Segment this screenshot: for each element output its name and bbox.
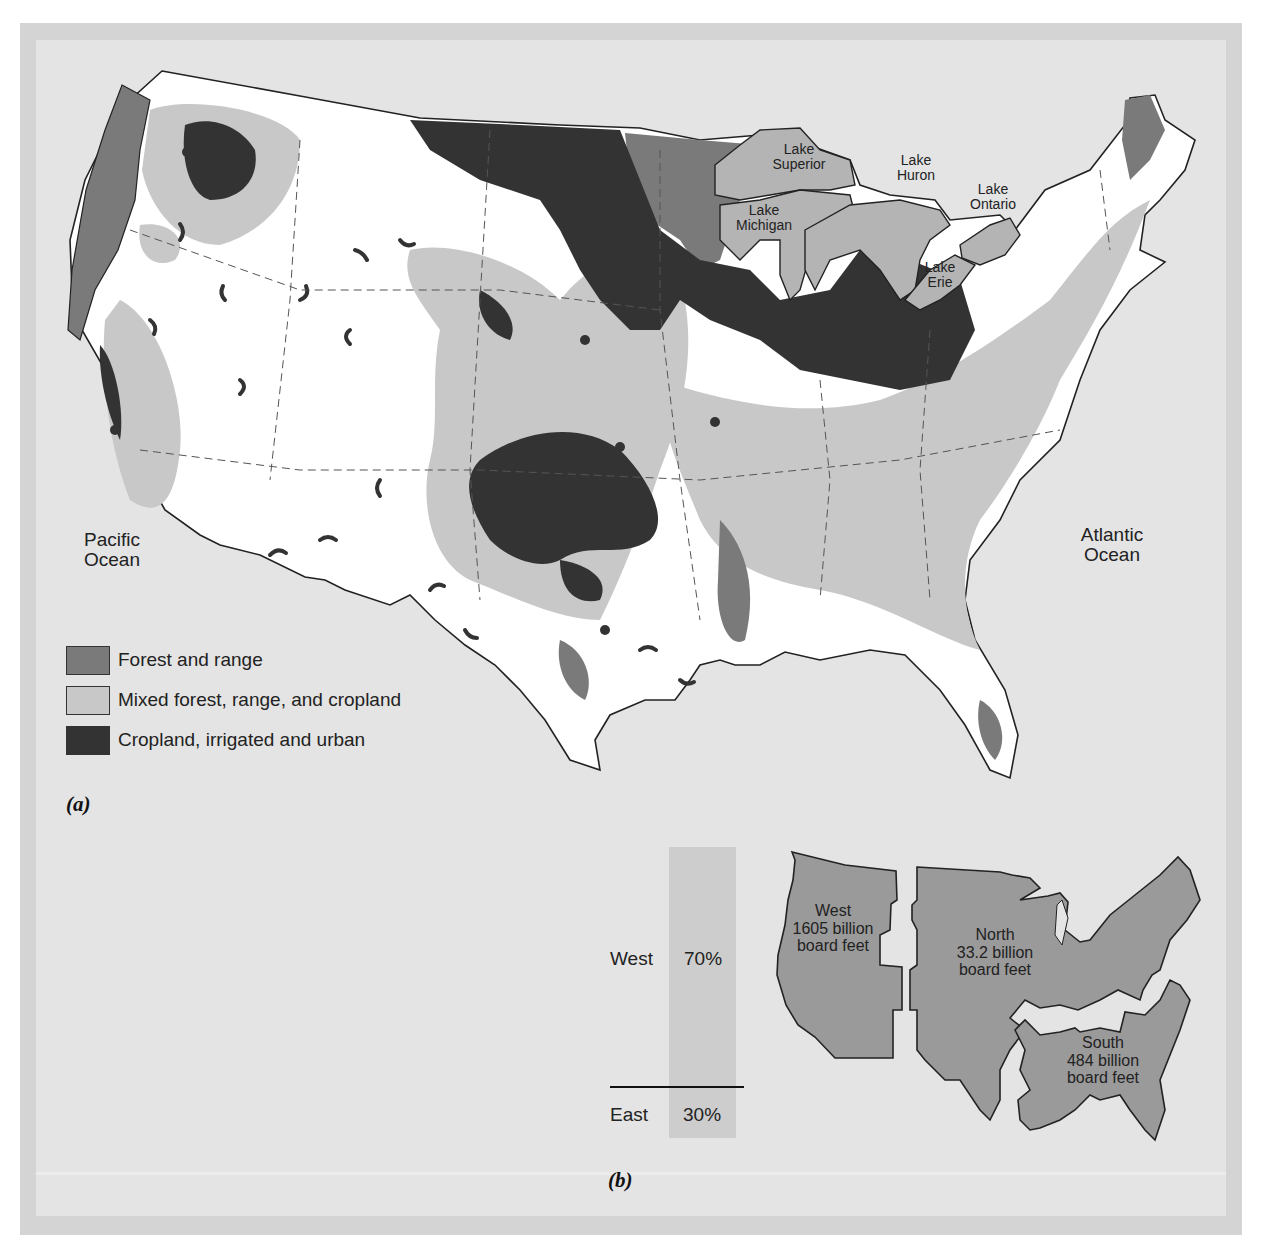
region-west-name: West — [778, 902, 888, 920]
region-west-label: West 1605 billion board feet — [778, 902, 888, 955]
region-north-name: North — [940, 926, 1050, 944]
region-west-shape — [777, 852, 902, 1058]
region-north-value: 33.2 billion — [940, 944, 1050, 962]
region-north-unit: board feet — [940, 961, 1050, 979]
region-south-label: South 484 billion board feet — [1048, 1034, 1158, 1087]
figure-label-b: (b) — [608, 1168, 633, 1193]
region-south-unit: board feet — [1048, 1069, 1158, 1087]
region-north-label: North 33.2 billion board feet — [940, 926, 1050, 979]
region-west-value: 1605 billion — [778, 920, 888, 938]
region-south-value: 484 billion — [1048, 1052, 1158, 1070]
region-south-name: South — [1048, 1034, 1158, 1052]
region-west-unit: board feet — [778, 937, 888, 955]
